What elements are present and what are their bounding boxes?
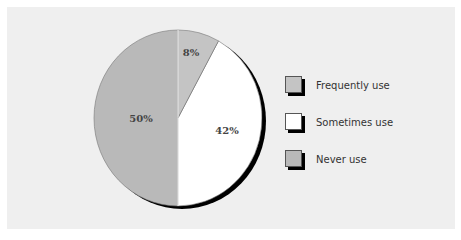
legend-item-sometimes: Sometimes use — [285, 112, 393, 132]
legend-swatch-sometimes — [285, 113, 304, 132]
label-never: 50% — [129, 113, 153, 124]
label-frequently: 8% — [183, 47, 200, 58]
label-sometimes: 42% — [215, 125, 239, 136]
legend: Frequently use Sometimes use Never use — [285, 75, 393, 186]
legend-swatch-frequently — [285, 76, 304, 95]
legend-item-never: Never use — [285, 149, 393, 169]
pie-chart: 8% 42% 50% — [93, 29, 267, 211]
legend-item-frequently: Frequently use — [285, 75, 393, 95]
pie-svg: 8% 42% 50% — [93, 29, 267, 211]
legend-label: Frequently use — [316, 80, 390, 91]
legend-swatch-never — [285, 150, 304, 169]
legend-label: Never use — [316, 154, 367, 165]
legend-label: Sometimes use — [316, 117, 393, 128]
